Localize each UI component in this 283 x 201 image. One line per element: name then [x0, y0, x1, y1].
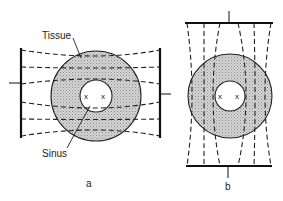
sinus-label: Sinus — [42, 148, 67, 159]
marker-a-2: x — [101, 92, 105, 101]
marker-b-1: x — [218, 92, 222, 101]
sinus-electrode-diagram: x x Tissue Sinus a x x b — [0, 0, 283, 201]
panel-label-a: a — [86, 178, 92, 189]
panel-b: x x b — [185, 11, 273, 192]
panel-label-b: b — [225, 181, 231, 192]
marker-a-1: x — [84, 92, 88, 101]
panel-a: x x Tissue Sinus a — [9, 30, 171, 189]
tissue-label: Tissue — [42, 30, 72, 41]
marker-b-2: x — [235, 92, 239, 101]
